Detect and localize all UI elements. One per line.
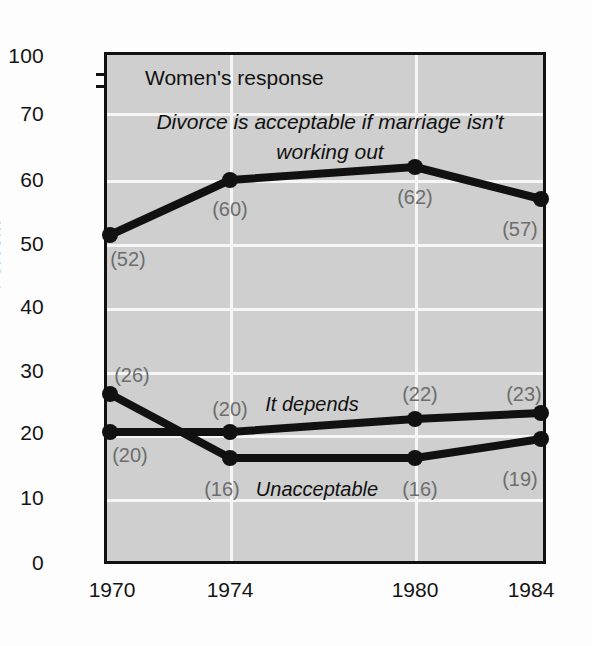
point-label-acceptable-1970: (52) — [110, 248, 146, 271]
point-label-it-depends-1974: (20) — [212, 398, 248, 421]
point-label-acceptable-1980: (62) — [397, 186, 433, 209]
y-tick-label-70: 70 — [0, 102, 44, 126]
point-label-unacceptable-1980: (16) — [402, 478, 438, 501]
point-label-unacceptable-1970: (26) — [114, 364, 150, 387]
series-label-unacceptable: Unacceptable — [256, 478, 378, 501]
x-tick-label-1984: 1984 — [508, 578, 555, 602]
annotation-title-line-2: working out — [276, 140, 383, 164]
y-tick-label-10: 10 — [0, 486, 44, 510]
point-label-acceptable-1974: (60) — [212, 198, 248, 221]
y-axis-title: Percent — [0, 221, 5, 290]
x-tick-label-1970: 1970 — [89, 578, 136, 602]
gridline-20 — [107, 435, 543, 438]
annotation-title-line-1: Divorce is acceptable if marriage isn't — [156, 110, 503, 134]
x-tick-label-1974: 1974 — [207, 578, 254, 602]
point-label-acceptable-1984: (57) — [502, 218, 538, 241]
y-tick-label-60: 60 — [0, 168, 44, 192]
chart-figure: 100 70 60 50 40 30 20 10 0 Percent — [0, 0, 592, 646]
series-label-it-depends: It depends — [265, 393, 358, 416]
y-tick-label-0: 0 — [0, 551, 44, 575]
x-tick-label-1980: 1980 — [392, 578, 439, 602]
point-label-unacceptable-1974: (16) — [204, 478, 240, 501]
gridline-50 — [107, 244, 543, 247]
point-label-it-depends-1970: (20) — [112, 444, 148, 467]
gridline-40 — [107, 308, 543, 311]
y-tick-label-30: 30 — [0, 359, 44, 383]
gridline-30 — [107, 372, 543, 375]
point-label-unacceptable-1984: (19) — [502, 468, 538, 491]
point-label-it-depends-1984: (23) — [506, 383, 542, 406]
gridline-60 — [107, 180, 543, 183]
y-tick-label-20: 20 — [0, 421, 44, 445]
y-tick-label-50: 50 — [0, 232, 44, 256]
y-tick-label-40: 40 — [0, 295, 44, 319]
annotation-heading: Women's response — [145, 66, 324, 90]
y-tick-label-100: 100 — [0, 44, 44, 68]
point-label-it-depends-1980: (22) — [402, 383, 438, 406]
